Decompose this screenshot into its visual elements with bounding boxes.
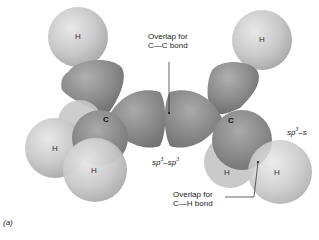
atom-h-left-2: H [91,166,97,175]
panel-label: (a) [3,218,13,227]
atom-c-right: C [228,116,234,125]
atom-h-left-1: H [52,144,58,153]
lobe-upper-right [208,62,259,114]
label-sp3-sp3: sp3–sp3 [152,155,179,167]
atom-c-left: C [103,115,109,124]
atom-h-right-2: H [274,168,280,177]
atom-h-right-1: H [224,168,230,177]
atom-h-top-right: H [259,35,265,44]
label-sp3-s: sp3–s [287,125,307,137]
atom-h-top-left: H [75,32,81,41]
hydrogen-right-2 [248,140,312,204]
label-overlap-cc: Overlap for C—C bond [148,32,188,50]
label-overlap-ch: Overlap for C—H bond [173,190,213,208]
